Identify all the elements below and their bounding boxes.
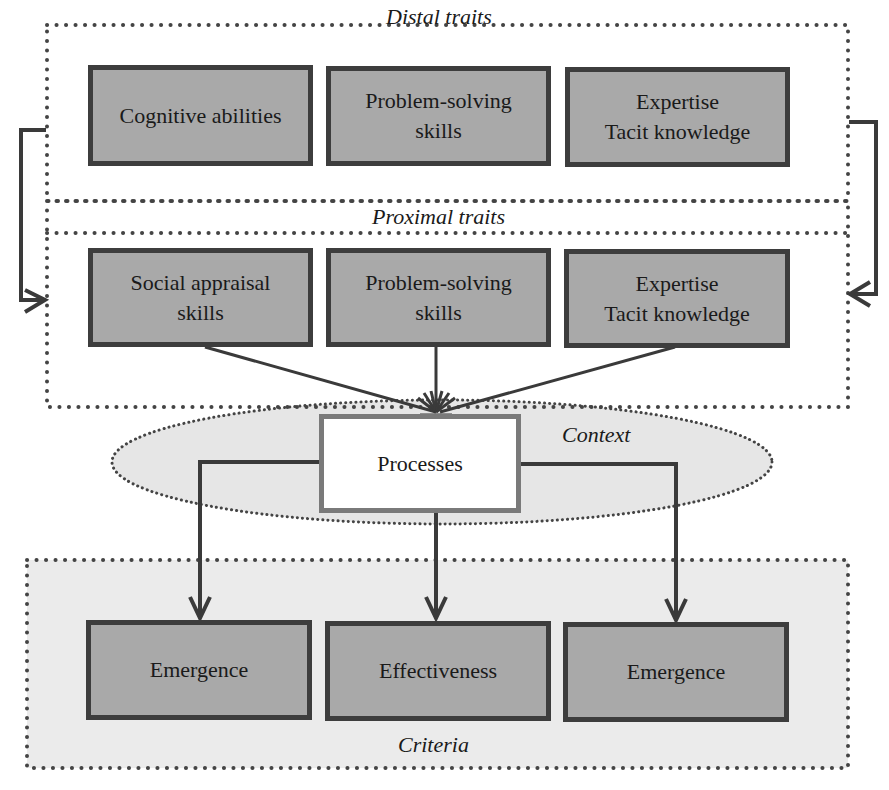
- right-distal-to-proximal-arrow: [849, 122, 876, 306]
- distal-traits-label: Distal traits: [386, 4, 492, 30]
- node-label: Social appraisal skills: [131, 268, 271, 328]
- criteria-node-emergence-left: Emergence: [86, 620, 312, 720]
- node-label: Effectiveness: [379, 656, 497, 686]
- node-label: Problem-solving skills: [365, 86, 512, 146]
- node-label: Cognitive abilities: [120, 101, 282, 131]
- node-label: Emergence: [150, 655, 249, 685]
- proximal-node-social-appraisal-skills: Social appraisal skills: [88, 248, 313, 347]
- criteria-node-effectiveness: Effectiveness: [325, 621, 551, 721]
- node-label: Expertise Tacit knowledge: [605, 87, 751, 147]
- proximal-node-expertise-tacit-knowledge: Expertise Tacit knowledge: [564, 249, 790, 348]
- processes-node: Processes: [319, 414, 521, 513]
- left-distal-to-proximal-arrow: [21, 130, 46, 312]
- context-label: Context: [562, 422, 630, 448]
- node-label: Processes: [377, 451, 463, 477]
- proximal-node-problem-solving-skills: Problem-solving skills: [326, 248, 551, 347]
- node-label: Problem-solving skills: [365, 268, 512, 328]
- criteria-label: Criteria: [398, 732, 469, 758]
- proximal-to-processes-arrows: [205, 347, 675, 415]
- distal-node-cognitive-abilities: Cognitive abilities: [88, 65, 313, 166]
- node-label: Emergence: [627, 657, 726, 687]
- node-label: Expertise Tacit knowledge: [604, 269, 750, 329]
- criteria-node-emergence-right: Emergence: [563, 622, 789, 722]
- proximal-traits-label: Proximal traits: [372, 204, 505, 230]
- distal-node-problem-solving-skills: Problem-solving skills: [326, 66, 551, 166]
- distal-node-expertise-tacit-knowledge: Expertise Tacit knowledge: [565, 67, 790, 167]
